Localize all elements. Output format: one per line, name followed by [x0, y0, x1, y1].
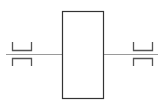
left-upper-bracket: [13, 42, 32, 51]
left-lower-bracket: [13, 59, 32, 67]
right-upper-bracket: [134, 42, 153, 51]
central-block: [63, 12, 104, 99]
diagram-canvas: [0, 0, 161, 107]
right-lower-bracket: [134, 59, 153, 67]
